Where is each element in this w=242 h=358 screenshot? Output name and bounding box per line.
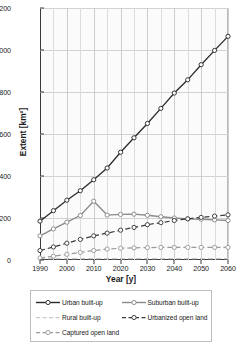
- x-axis-tick-mark: [201, 260, 202, 264]
- data-point-marker: [38, 234, 42, 238]
- data-point-marker: [92, 248, 96, 252]
- legend-label: Captured open land: [60, 329, 119, 336]
- data-point-marker: [132, 136, 136, 140]
- y-axis-tick-mark: [40, 218, 44, 219]
- y-axis-tick-label: 1000: [0, 46, 11, 55]
- plot-area: [40, 8, 228, 260]
- data-point-marker: [159, 245, 163, 249]
- data-point-marker: [118, 212, 122, 216]
- data-point-marker: [132, 246, 136, 250]
- data-point-marker: [226, 34, 230, 38]
- data-point-marker: [51, 227, 55, 231]
- data-point-marker: [92, 178, 96, 182]
- data-point-marker: [78, 189, 82, 193]
- data-point-marker: [172, 218, 176, 222]
- data-point-marker: [226, 213, 230, 217]
- y-axis-tick-mark: [40, 134, 44, 135]
- legend-label: Urbanized open land: [146, 314, 208, 321]
- data-point-marker: [145, 223, 149, 227]
- legend-label: Rural built-up: [60, 314, 101, 321]
- y-axis-tick-mark: [40, 260, 44, 261]
- data-point-marker: [172, 245, 176, 249]
- legend-key-icon: [36, 298, 60, 307]
- x-axis-tick-mark: [228, 260, 229, 264]
- y-axis-tick-mark: [40, 176, 44, 177]
- data-point-marker: [212, 48, 216, 52]
- data-point-marker: [65, 198, 69, 202]
- x-axis-tick-label: 2000: [59, 264, 75, 273]
- data-point-marker: [65, 241, 69, 245]
- legend-row: Captured open land: [36, 325, 207, 340]
- data-point-marker: [132, 225, 136, 229]
- legend-item-suburban-built-up[interactable]: Suburban built-up: [122, 295, 208, 310]
- data-point-marker: [199, 63, 203, 67]
- legend-item-rural-built-up[interactable]: Rural built-up: [36, 310, 122, 325]
- data-point-marker: [78, 237, 82, 241]
- x-axis-tick-label: 2010: [86, 264, 102, 273]
- data-point-marker: [159, 106, 163, 110]
- legend-key-icon: [122, 298, 146, 307]
- data-point-marker: [105, 166, 109, 170]
- legend-row: Urban built-up Suburban built-up: [36, 295, 207, 310]
- data-point-marker: [51, 254, 55, 258]
- legend-key-icon: [122, 313, 146, 322]
- legend-label: Suburban built-up: [146, 299, 199, 306]
- y-axis-tick-mark: [40, 8, 44, 9]
- x-axis-tick-mark: [66, 260, 67, 264]
- data-point-marker: [38, 248, 42, 252]
- x-axis-tick-label: 1990: [32, 264, 48, 273]
- legend-label: Urban built-up: [60, 299, 103, 306]
- data-point-marker: [186, 78, 190, 82]
- data-point-marker: [199, 245, 203, 249]
- data-point-marker: [132, 212, 136, 216]
- data-point-marker: [78, 213, 82, 217]
- legend-key-icon: [36, 313, 60, 322]
- data-point-marker: [65, 252, 69, 256]
- legend-item-urbanized-open-land[interactable]: Urbanized open land: [122, 310, 208, 325]
- x-axis-tick-label: 2020: [113, 264, 129, 273]
- x-axis-tick-label: 2050: [193, 264, 209, 273]
- data-point-marker: [159, 215, 163, 219]
- y-axis-tick-label: 600: [0, 130, 11, 139]
- data-point-marker: [92, 234, 96, 238]
- legend-item-captured-open-land[interactable]: Captured open land: [36, 325, 207, 340]
- legend-item-urban-built-up[interactable]: Urban built-up: [36, 295, 122, 310]
- x-axis-tick-label: 2060: [220, 264, 236, 273]
- legend-row: Rural built-up Urbanized open land: [36, 310, 207, 325]
- data-point-marker: [145, 121, 149, 125]
- data-point-marker: [226, 218, 230, 222]
- data-point-marker: [159, 221, 163, 225]
- data-point-marker: [105, 247, 109, 251]
- data-point-marker: [65, 220, 69, 224]
- series-layer: [40, 8, 228, 260]
- y-axis-tick-mark: [40, 50, 44, 51]
- figure: Extent [km²] 020040060080010001200199020…: [0, 0, 242, 358]
- data-point-marker: [118, 228, 122, 232]
- data-point-marker: [118, 246, 122, 250]
- y-axis-tick-label: 800: [0, 88, 11, 97]
- data-point-marker: [186, 217, 190, 221]
- data-point-marker: [51, 209, 55, 213]
- x-axis-tick-mark: [120, 260, 121, 264]
- y-axis-tick-label: 400: [0, 172, 11, 181]
- data-point-marker: [199, 215, 203, 219]
- data-point-marker: [118, 150, 122, 154]
- data-point-marker: [212, 245, 216, 249]
- data-point-marker: [186, 245, 190, 249]
- y-axis-tick-label: 200: [0, 214, 11, 223]
- data-point-marker: [51, 245, 55, 249]
- data-point-marker: [172, 91, 176, 95]
- y-axis-title: Extent [km²]: [18, 108, 28, 156]
- data-point-marker: [38, 219, 42, 223]
- y-axis-tick-label: 1200: [0, 4, 11, 13]
- y-axis-tick-mark: [40, 92, 44, 93]
- data-point-marker: [145, 246, 149, 250]
- x-axis-tick-label: 2040: [166, 264, 182, 273]
- legend-key-icon: [36, 328, 60, 337]
- data-point-marker: [78, 250, 82, 254]
- data-point-marker: [212, 214, 216, 218]
- x-axis-title: Year [y]: [0, 274, 242, 284]
- data-point-marker: [105, 213, 109, 217]
- y-axis-tick-label: 0: [7, 256, 11, 265]
- data-point-marker: [105, 231, 109, 235]
